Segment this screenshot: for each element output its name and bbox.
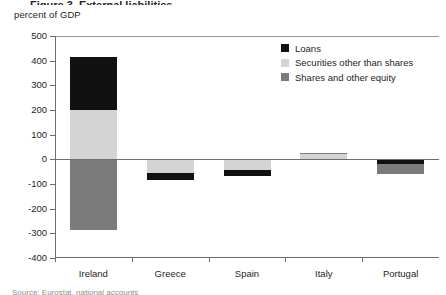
figure-title-cropped: Figure 3. External liabilities [30,0,230,5]
x-tick-label: Ireland [79,268,108,279]
y-tick-label: -400 [28,253,47,263]
bar-segment [70,110,117,159]
y-tick-label: -300 [28,228,47,238]
bar-segment [224,159,271,170]
bar-segment [147,173,194,180]
x-tick-mark [55,257,56,262]
x-tick-mark [362,257,363,262]
x-tick-mark [209,257,210,262]
y-tick-mark [50,61,55,62]
y-tick-label: 0 [42,154,47,164]
chart-figure: Figure 3. External liabilities percent o… [0,0,446,295]
y-tick-label: 500 [31,31,47,41]
y-tick-mark [50,184,55,185]
legend-swatch-icon [281,59,289,67]
bar-segment [377,164,424,174]
y-tick-mark [50,233,55,234]
legend-item: Shares and other equity [281,70,441,85]
legend-label: Shares and other equity [295,72,396,83]
y-tick-mark [50,159,55,160]
x-tick-mark [285,257,286,262]
x-tick-label: Spain [235,268,259,279]
legend-label: Loans [295,43,321,54]
x-axis-line [55,257,439,258]
y-tick-label: 400 [31,56,47,66]
legend-swatch-icon [281,73,289,81]
y-tick-mark [50,85,55,86]
legend-swatch-icon [281,44,289,52]
legend: LoansSecurities other than sharesShares … [281,41,441,85]
legend-item: Securities other than shares [281,56,441,71]
x-tick-label: Greece [155,268,186,279]
y-tick-mark [50,110,55,111]
y-tick-mark [50,135,55,136]
y-tick-label: 300 [31,80,47,90]
zero-baseline [55,159,439,160]
y-tick-label: -200 [28,204,47,214]
x-tick-label: Italy [315,268,332,279]
bar-segment [147,159,194,173]
y-tick-label: 100 [31,130,47,140]
figure-caption-cropped: Source: Eurostat, national accounts [12,288,312,295]
y-tick-mark [50,209,55,210]
bar-segment [70,57,117,110]
y-tick-label: -100 [28,179,47,189]
x-tick-mark [132,257,133,262]
bar-segment [224,170,271,175]
y-axis-title: percent of GDP [14,9,81,21]
y-axis-line [55,36,56,258]
legend-item: Loans [281,41,441,56]
y-tick-mark [50,36,55,37]
bar-segment [70,159,117,229]
legend-label: Securities other than shares [295,57,413,68]
plot-frame-top [55,36,439,37]
x-tick-label: Portugal [383,268,418,279]
y-tick-label: 200 [31,105,47,115]
